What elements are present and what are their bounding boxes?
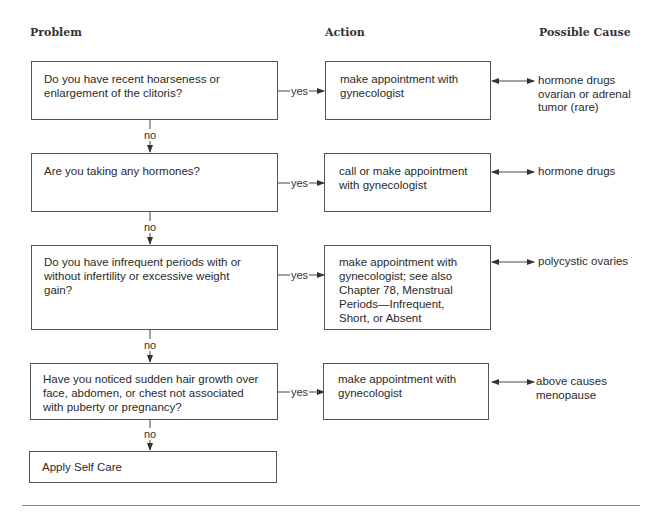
cause-text-1: hormone drugs ovarian or adrenal tumor (… <box>538 74 631 115</box>
problem-box-4: Have you noticed sudden hair growth over… <box>30 363 278 420</box>
action-box-2: call or make appointment with gynecologi… <box>324 153 491 212</box>
action-box-3: make appointment with gynecologist; see … <box>324 245 491 330</box>
self-care-box: Apply Self Care <box>29 451 277 483</box>
problem-text-1: Do you have recent hoarseness or enlarge… <box>44 72 220 100</box>
cause-text-4: above causes menopause <box>536 375 607 402</box>
problem-box-3: Do you have infrequent periods with or w… <box>31 245 278 330</box>
problem-text-2: Are you taking any hormones? <box>44 164 200 178</box>
yes-label-2: yes <box>290 177 309 189</box>
yes-label-3: yes <box>290 269 309 281</box>
no-label-3: no <box>143 339 157 351</box>
yes-label-4: yes <box>290 386 309 398</box>
action-box-4: make appointment with gynecologist <box>323 363 489 420</box>
problem-text-3: Do you have infrequent periods with or w… <box>44 255 241 297</box>
self-care-text: Apply Self Care <box>42 460 122 474</box>
no-label-4: no <box>143 428 157 440</box>
bottom-divider <box>22 505 640 506</box>
no-label-1: no <box>143 129 157 141</box>
action-text-2: call or make appointment with gynecologi… <box>339 164 467 192</box>
action-text-3: make appointment with gynecologist; see … <box>339 255 457 325</box>
action-text-1: make appointment with gynecologist <box>340 72 458 100</box>
problem-text-4: Have you noticed sudden hair growth over… <box>43 372 258 414</box>
cause-text-2: hormone drugs <box>538 165 615 179</box>
action-text-4: make appointment with gynecologist <box>338 372 456 400</box>
cause-text-3: polycystic ovaries <box>538 255 628 269</box>
action-box-1: make appointment with gynecologist <box>325 61 491 120</box>
problem-box-1: Do you have recent hoarseness or enlarge… <box>31 61 278 120</box>
problem-box-2: Are you taking any hormones? <box>31 153 278 212</box>
no-label-2: no <box>143 221 157 233</box>
yes-label-1: yes <box>290 85 309 97</box>
